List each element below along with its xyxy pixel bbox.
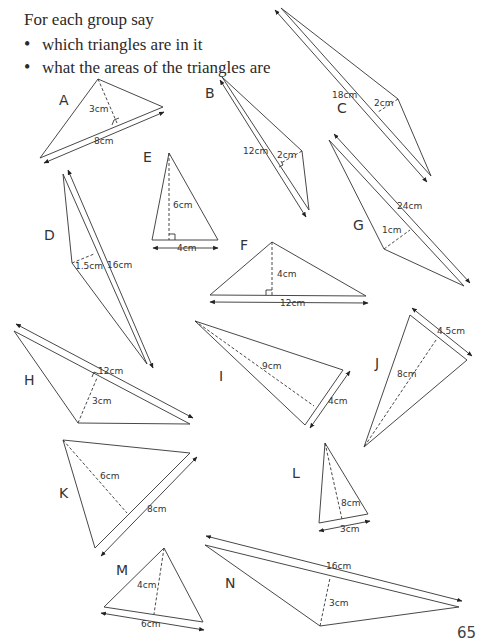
height-d: 1.5cm bbox=[75, 261, 103, 271]
triangles-figure: A B C D E F G H I J K L M N 3cm 8cm 12cm… bbox=[0, 0, 486, 644]
base-l: 3cm bbox=[340, 524, 359, 534]
base-k: 8cm bbox=[147, 504, 166, 514]
base-d: 16cm bbox=[107, 260, 132, 270]
label-b: B bbox=[205, 85, 215, 101]
base-g: 24cm bbox=[397, 201, 422, 211]
label-k: K bbox=[59, 485, 69, 501]
triangle-n bbox=[205, 536, 462, 626]
height-l: 8cm bbox=[341, 498, 360, 508]
label-d: D bbox=[44, 227, 55, 243]
height-f: 4cm bbox=[277, 269, 296, 279]
page-number: 65 bbox=[457, 624, 476, 642]
label-n: N bbox=[225, 575, 235, 591]
base-m: 6cm bbox=[141, 619, 160, 629]
base-j: 4.5cm bbox=[437, 326, 465, 336]
height-i: 9cm bbox=[262, 361, 281, 371]
label-g: G bbox=[353, 217, 364, 233]
height-m: 4cm bbox=[137, 580, 156, 590]
label-a: A bbox=[59, 92, 69, 108]
label-h: H bbox=[24, 372, 35, 388]
label-j: J bbox=[374, 355, 379, 371]
triangle-l bbox=[319, 443, 370, 531]
height-k: 6cm bbox=[100, 471, 119, 481]
base-e: 4cm bbox=[177, 243, 196, 253]
base-n: 16cm bbox=[326, 561, 351, 571]
height-a: 3cm bbox=[89, 104, 108, 114]
base-f: 12cm bbox=[280, 298, 305, 308]
height-g: 1cm bbox=[382, 225, 401, 235]
label-m: M bbox=[116, 562, 128, 578]
base-h: 12cm bbox=[98, 366, 123, 376]
label-l: L bbox=[292, 465, 300, 481]
base-b: 12cm bbox=[243, 146, 268, 156]
label-i: I bbox=[219, 368, 223, 384]
triangle-k bbox=[63, 440, 197, 556]
label-c: C bbox=[337, 100, 347, 116]
height-j: 8cm bbox=[397, 369, 416, 379]
height-b: 2cm bbox=[277, 150, 296, 160]
height-e: 6cm bbox=[173, 200, 192, 210]
height-c: 2cm bbox=[374, 98, 393, 108]
height-n: 3cm bbox=[329, 598, 348, 608]
label-e: E bbox=[143, 149, 152, 165]
base-a: 8cm bbox=[94, 136, 113, 146]
base-c: 18cm bbox=[332, 90, 357, 100]
height-h: 3cm bbox=[92, 396, 111, 406]
base-i: 4cm bbox=[328, 396, 347, 406]
label-f: F bbox=[240, 237, 248, 253]
